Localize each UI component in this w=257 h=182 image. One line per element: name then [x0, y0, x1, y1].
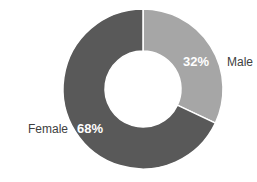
female-category-label: Female: [28, 122, 68, 136]
donut-chart: 32% Male 68% Female: [0, 0, 257, 182]
male-category-label: Male: [227, 55, 253, 69]
male-percent-label: 32%: [183, 54, 209, 69]
female-percent-label: 68%: [77, 121, 103, 136]
